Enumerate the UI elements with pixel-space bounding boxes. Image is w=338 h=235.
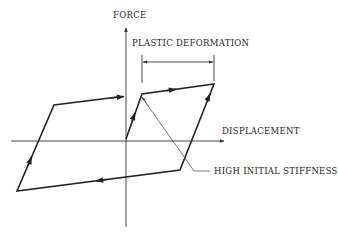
plastic-deformation-dimension	[142, 55, 214, 83]
displacement-axis-label: DISPLACEMENT	[222, 126, 300, 136]
axes	[11, 28, 224, 227]
direction-arrow-bottom	[96, 180, 106, 182]
loop-path	[17, 84, 214, 191]
leader-line	[144, 100, 210, 171]
hysteresis-loop	[17, 84, 214, 191]
high-initial-stiffness-label: HIGH INITIAL STIFFNESS	[214, 166, 338, 176]
callout-leader	[142, 97, 210, 171]
force-axis-label: FORCE	[113, 10, 146, 20]
leader-arrow	[142, 97, 149, 107]
direction-arrow-left	[28, 157, 32, 166]
direction-arrow-top	[166, 89, 176, 90]
plastic-deformation-label: PLASTIC DEFORMATION	[132, 38, 249, 48]
loop-end-arrow	[110, 97, 124, 99]
